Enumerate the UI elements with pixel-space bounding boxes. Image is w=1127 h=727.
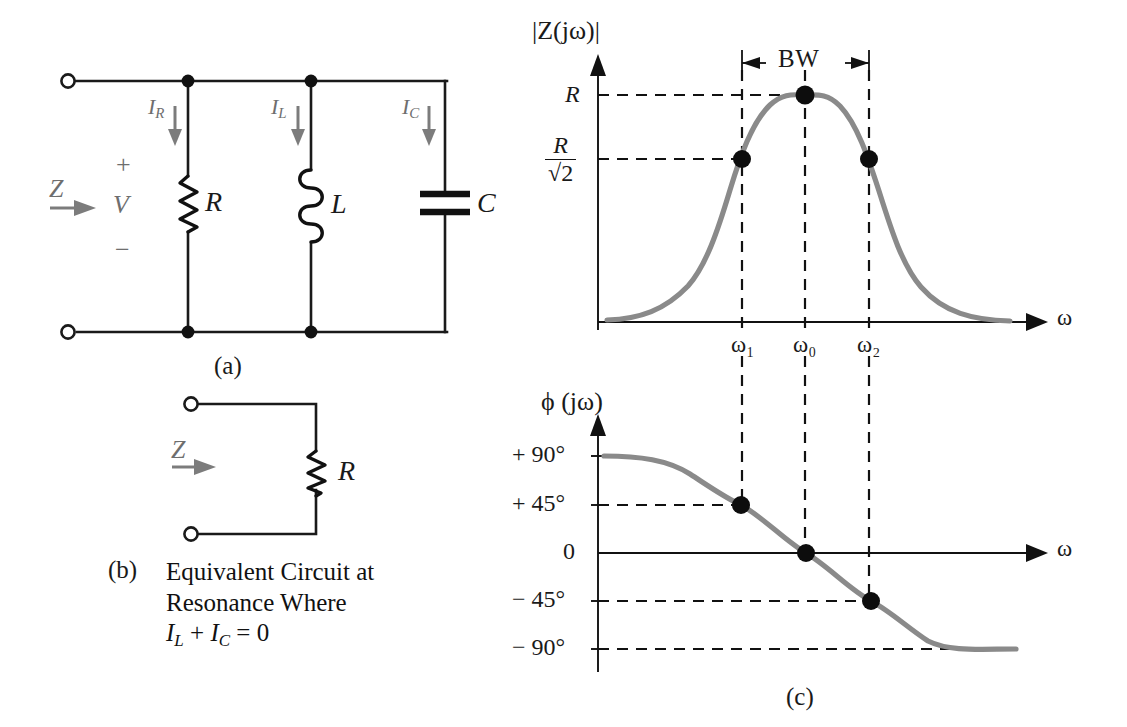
phase-ytick-m90: − 90° (512, 635, 565, 659)
circuit-b-description-line-1: Equivalent Circuit at (166, 557, 374, 588)
magnitude-plot-group (590, 50, 1048, 604)
panel-caption-b: (b) (108, 557, 137, 582)
magnitude-xtick-omega2: ω₂ (857, 333, 880, 356)
magnitude-xaxis-label: ω (1057, 306, 1072, 329)
magnitude-marker-omega1 (733, 150, 751, 168)
circuit-b-description: Equivalent Circuit at Resonance Where IL… (166, 557, 374, 651)
current-label-ir: IR (148, 96, 164, 121)
magnitude-ytick-denominator: √2 (545, 161, 576, 186)
magnitude-ytick-rsqrt2: R √2 (545, 133, 576, 186)
phase-xaxis-label: ω (1057, 537, 1072, 560)
magnitude-marker-omega0 (796, 86, 815, 105)
current-label-il: IL (271, 96, 287, 121)
current-arrow-ir (168, 106, 182, 146)
panel-caption-a: (a) (214, 353, 242, 378)
phase-y-axis-arrowhead (590, 414, 606, 436)
magnitude-marker-omega2 (860, 150, 878, 168)
phase-plot-group (590, 414, 1048, 672)
circuit-a-terminal-bottom (61, 325, 74, 338)
phase-marker-omega2 (862, 592, 880, 610)
phase-ytick-zero: 0 (563, 539, 575, 563)
panel-caption-c: (c) (786, 684, 814, 709)
voltage-label-a: V (113, 192, 129, 218)
phase-marker-omega1 (732, 496, 750, 514)
current-label-ic: IC (402, 96, 419, 121)
polarity-plus-a: + (116, 152, 131, 178)
resistor-label-a: R (205, 188, 222, 216)
magnitude-y-axis-arrowhead (590, 54, 606, 76)
circuit-b-description-line-2: Resonance Where (166, 588, 374, 619)
circuit-a-terminal-top (61, 74, 74, 87)
figure-root: IR IL IC Z + V − R L C (a) Z R (b) Equiv… (0, 0, 1127, 727)
impedance-label-b: Z (171, 437, 185, 463)
polarity-minus-a: − (115, 237, 130, 263)
magnitude-axis-title: |Z(jω)| (532, 18, 600, 44)
magnitude-xtick-omega1: ω₁ (731, 333, 754, 356)
circuit-b-group (172, 397, 325, 540)
phase-ytick-m45: − 45° (512, 587, 565, 611)
phase-axis-title: ϕ (jω) (541, 389, 603, 415)
phase-x-axis-arrowhead (1026, 544, 1048, 562)
circuit-b-terminal-top (184, 397, 197, 410)
magnitude-ytick-numerator: R (545, 133, 576, 158)
impedance-label-a: Z (49, 176, 63, 202)
circuit-b-bottom-wire (199, 490, 316, 534)
magnitude-xtick-omega0: ω₀ (793, 333, 816, 356)
circuit-b-terminal-bottom (184, 527, 197, 540)
resistor-label-b: R (338, 457, 355, 485)
phase-ytick-p90: + 90° (512, 442, 565, 466)
circuit-a-node-bottom-r (182, 326, 195, 339)
magnitude-curve (607, 95, 1010, 321)
current-arrow-ic (422, 106, 436, 146)
circuit-b-equation: IL + IC = 0 (166, 618, 374, 651)
inductor-symbol-l (300, 170, 323, 242)
circuit-a-node-top-r (182, 75, 195, 88)
phase-marker-omega0 (797, 544, 815, 562)
magnitude-ytick-r: R (565, 82, 580, 106)
bandwidth-label: BW (778, 46, 819, 71)
circuit-a-node-bottom-l (305, 326, 318, 339)
current-arrow-il (291, 106, 305, 146)
circuit-b-top-wire (199, 404, 316, 451)
capacitor-label-a: C (477, 189, 496, 217)
inductor-label-a: L (331, 190, 347, 218)
phase-ytick-p45: + 45° (512, 491, 565, 515)
circuit-a-node-top-l (305, 75, 318, 88)
resistor-symbol-r (180, 176, 197, 232)
magnitude-x-axis-arrowhead (1026, 313, 1048, 331)
